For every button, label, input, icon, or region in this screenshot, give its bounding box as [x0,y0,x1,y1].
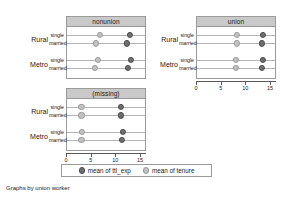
data-point-tenure [78,112,84,118]
x-axis-tick-label: 0 [64,157,67,163]
panel-title: nonunion [66,16,146,27]
x-axis-tick-label: 0 [194,85,197,91]
panel-title: (missing) [66,88,146,99]
data-point-tenure [232,65,238,71]
category-label-married: married [179,40,194,46]
category-label-single: single [49,32,64,38]
category-label-single: single [49,129,64,135]
legend-label: mean of tenure [152,167,194,174]
x-axis-tick-label: 15 [137,157,143,163]
data-point-ttl-exp [119,137,125,143]
category-label-married: married [179,65,194,71]
plot-area [66,27,146,79]
data-point-ttl-exp [259,65,265,71]
category-rule [67,35,145,36]
plot-area [66,99,146,151]
data-point-ttl-exp [120,128,126,134]
data-point-tenure [233,40,239,46]
x-axis-tick-label: 15 [267,85,273,91]
data-point-ttl-exp [118,104,124,110]
data-point-tenure [96,32,102,38]
group-label-metro: Metro [152,60,178,67]
x-axis-line [66,153,146,154]
chart-legend: mean of ttl_expmean of tenure [61,164,212,177]
x-axis-line [196,81,276,82]
category-label-single: single [179,32,194,38]
x-axis-tick-label: 10 [112,157,118,163]
group-label-metro: Metro [22,60,48,67]
data-point-tenure [234,32,240,38]
data-point-tenure [78,104,84,110]
data-point-tenure [93,40,99,46]
data-point-tenure [95,56,101,62]
data-point-tenure [92,65,98,71]
category-label-single: single [179,57,194,63]
data-point-tenure [233,56,239,62]
category-label-married: married [49,112,64,118]
category-rule [67,68,145,69]
category-label-married: married [49,65,64,71]
group-label-rural: Rural [22,108,48,115]
group-label-rural: Rural [152,36,178,43]
data-point-ttl-exp [124,40,130,46]
data-point-tenure [79,128,85,134]
plot-area [196,27,276,79]
data-point-ttl-exp [259,40,265,46]
legend-item: mean of tenure [143,167,195,174]
category-label-married: married [49,40,64,46]
x-axis-tick-label: 10 [242,85,248,91]
legend-item: mean of ttl_exp [79,167,131,174]
data-point-ttl-exp [118,112,124,118]
category-label-single: single [49,104,64,110]
category-rule [67,43,145,44]
data-point-tenure [78,137,84,143]
chart-caption: Graphs by union worker [6,185,70,191]
x-axis-tick-label: 5 [89,157,92,163]
data-point-ttl-exp [128,56,134,62]
panel-title: union [196,16,276,27]
group-label-rural: Rural [22,36,48,43]
data-point-ttl-exp [260,56,266,62]
category-label-married: married [49,137,64,143]
group-label-metro: Metro [22,132,48,139]
filled-circle-light-icon [143,167,149,173]
x-axis-tick-label: 5 [219,85,222,91]
filled-circle-dark-icon [79,167,85,173]
data-point-ttl-exp [125,65,131,71]
legend-label: mean of ttl_exp [88,167,131,174]
category-label-single: single [49,57,64,63]
data-point-ttl-exp [260,32,266,38]
data-point-ttl-exp [127,32,133,38]
